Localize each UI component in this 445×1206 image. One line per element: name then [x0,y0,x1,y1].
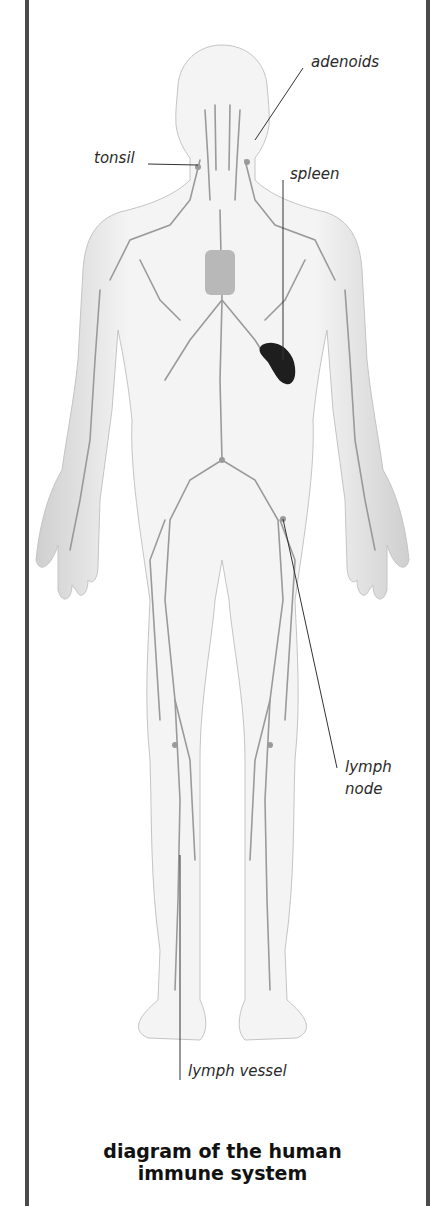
label-lymph-node-line1: lymph [345,758,392,776]
label-spleen: spleen [290,165,339,183]
label-adenoids: adenoids [311,53,379,71]
caption-line-1: diagram of the human [0,1140,445,1162]
body-silhouette [36,45,409,1040]
label-lymph-vessel: lymph vessel [188,1062,287,1080]
label-tonsil: tonsil [94,149,135,167]
caption-line-2: immune system [0,1162,445,1184]
diagram-caption: diagram of the human immune system [0,1140,445,1184]
label-lymph-node-line2: node [345,780,382,798]
heart-region [205,250,235,295]
